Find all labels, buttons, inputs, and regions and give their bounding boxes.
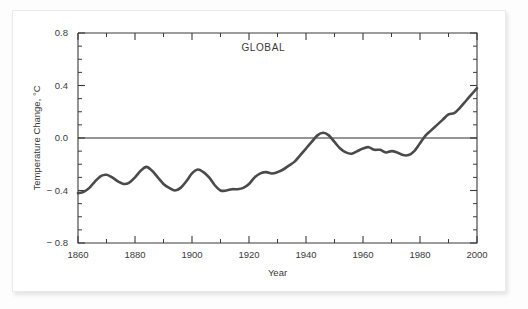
x-tick-label: 1960 <box>352 249 373 260</box>
x-tick-label: 1940 <box>295 249 316 260</box>
x-tick-label: 1900 <box>181 249 202 260</box>
x-axis-title: Year <box>268 267 287 278</box>
y-tick-label: 0.8 <box>55 27 68 38</box>
y-tick-label: 0.0 <box>55 132 68 143</box>
x-tick-label: 1860 <box>67 249 88 260</box>
data-series-line <box>78 88 477 193</box>
temperature-chart: − 0.8− 0.40.00.40.8186018801900192019401… <box>0 0 528 309</box>
x-tick-label: 1980 <box>409 249 430 260</box>
chart-figure: − 0.8− 0.40.00.40.8186018801900192019401… <box>0 0 528 309</box>
y-tick-label: − 0.4 <box>47 185 68 196</box>
x-tick-label: 1880 <box>124 249 145 260</box>
plot-title-global: GLOBAL <box>241 42 285 53</box>
x-tick-label: 2000 <box>466 249 487 260</box>
x-tick-label: 1920 <box>238 249 259 260</box>
page-background: − 0.8− 0.40.00.40.8186018801900192019401… <box>0 0 528 309</box>
y-tick-label: − 0.8 <box>47 237 68 248</box>
y-axis-title: Temperature Change, °C <box>31 85 42 190</box>
y-tick-label: 0.4 <box>55 80 68 91</box>
